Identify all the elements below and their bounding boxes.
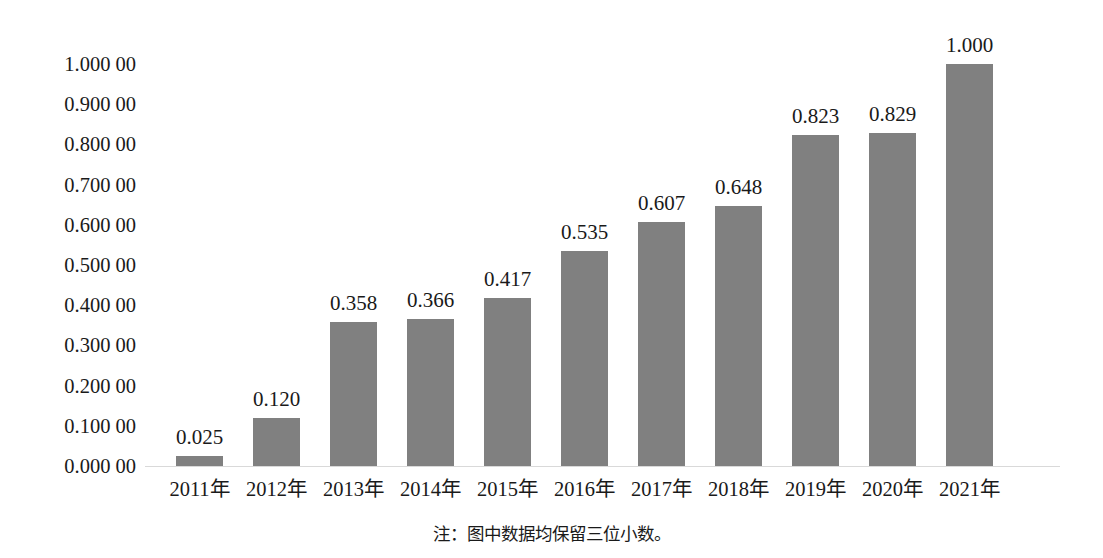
bar [946, 64, 993, 466]
bar [792, 135, 839, 466]
bar-value-label: 0.648 [715, 177, 762, 198]
bar-value-label: 0.366 [407, 290, 454, 311]
y-axis-tick-label: 0.900 00 [0, 94, 136, 115]
bar-value-label: 0.607 [638, 193, 685, 214]
bar-value-label: 0.120 [253, 389, 300, 410]
x-axis-tick-label: 2021年 [920, 478, 1020, 501]
bar-value-label: 0.535 [561, 222, 608, 243]
y-axis-tick-label: 0.000 00 [0, 456, 136, 477]
bar-group: 1.000 [946, 64, 993, 466]
bar-value-label: 0.358 [330, 293, 377, 314]
bar [561, 251, 608, 466]
bar-group: 0.366 [407, 64, 454, 466]
bar-group: 0.417 [484, 64, 531, 466]
y-axis: 0.000 000.100 000.200 000.300 000.400 00… [0, 0, 148, 558]
y-axis-tick-label: 0.800 00 [0, 134, 136, 155]
bar [715, 206, 762, 466]
bar [407, 319, 454, 466]
bar-value-label: 0.025 [176, 427, 223, 448]
bar-value-label: 0.829 [869, 104, 916, 125]
bar-group: 0.823 [792, 64, 839, 466]
y-axis-tick-label: 0.500 00 [0, 255, 136, 276]
bar-chart-figure: 0.000 000.100 000.200 000.300 000.400 00… [0, 0, 1103, 558]
y-axis-tick-label: 0.300 00 [0, 335, 136, 356]
bar [869, 133, 916, 466]
bar-group: 0.120 [253, 64, 300, 466]
y-axis-tick-label: 0.600 00 [0, 215, 136, 236]
y-axis-tick-label: 0.400 00 [0, 295, 136, 316]
plot-area: 0.0250.1200.3580.3660.4170.5350.6070.648… [148, 64, 1060, 466]
x-axis-baseline [145, 466, 1060, 467]
bar-group: 0.535 [561, 64, 608, 466]
bar [176, 456, 223, 466]
bar [253, 418, 300, 466]
bar-group: 0.025 [176, 64, 223, 466]
x-axis: 2011年2012年2013年2014年2015年2016年2017年2018年… [148, 478, 1060, 512]
bar [484, 298, 531, 466]
bar-group: 0.829 [869, 64, 916, 466]
y-axis-tick-label: 0.100 00 [0, 416, 136, 437]
bar-value-label: 0.417 [484, 269, 531, 290]
bar-group: 0.648 [715, 64, 762, 466]
bar-value-label: 1.000 [946, 35, 993, 56]
chart-note: 注：图中数据均保留三位小数。 [0, 524, 1103, 545]
y-axis-tick-label: 0.200 00 [0, 375, 136, 396]
bar-group: 0.607 [638, 64, 685, 466]
bar [330, 322, 377, 466]
y-axis-tick-label: 0.700 00 [0, 174, 136, 195]
bar [638, 222, 685, 466]
y-axis-tick-label: 1.000 00 [0, 54, 136, 75]
bar-group: 0.358 [330, 64, 377, 466]
bar-value-label: 0.823 [792, 106, 839, 127]
